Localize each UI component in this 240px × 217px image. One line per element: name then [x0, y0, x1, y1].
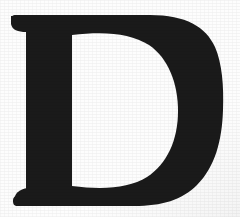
drop-cap-canvas: D	[0, 0, 240, 217]
drop-cap-letter	[0, 0, 240, 217]
top-serif	[11, 16, 74, 32]
letter-stem	[26, 24, 72, 204]
letter-d-glyph	[0, 0, 240, 217]
bottom-serif	[14, 188, 74, 205]
